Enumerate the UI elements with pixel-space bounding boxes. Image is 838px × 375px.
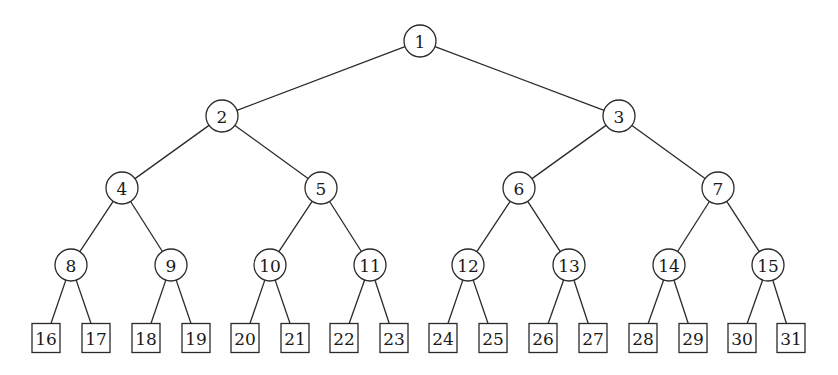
edge-6-13 xyxy=(528,201,561,251)
internal-node-7: 7 xyxy=(702,172,734,204)
node-label: 7 xyxy=(713,179,724,199)
node-label: 28 xyxy=(632,329,654,349)
node-label: 27 xyxy=(582,329,604,349)
node-label: 25 xyxy=(482,329,504,349)
edge-2-4 xyxy=(135,125,209,178)
internal-node-6: 6 xyxy=(503,172,535,204)
leaf-node-27: 27 xyxy=(579,324,607,353)
node-label: 13 xyxy=(558,256,580,276)
internal-node-1: 1 xyxy=(404,25,436,57)
leaf-node-25: 25 xyxy=(479,324,507,353)
edge-12-24 xyxy=(448,280,463,323)
leaf-node-21: 21 xyxy=(281,324,309,353)
node-label: 22 xyxy=(333,329,355,349)
leaf-node-29: 29 xyxy=(679,324,707,353)
node-label: 16 xyxy=(35,329,57,349)
internal-node-9: 9 xyxy=(155,249,187,281)
node-label: 24 xyxy=(432,329,454,349)
edge-4-8 xyxy=(80,201,113,251)
tree-edges xyxy=(51,47,786,324)
leaf-node-16: 16 xyxy=(32,324,60,353)
internal-node-4: 4 xyxy=(106,172,138,204)
node-label: 14 xyxy=(658,256,680,276)
leaf-node-22: 22 xyxy=(330,324,358,353)
edge-13-26 xyxy=(548,280,563,323)
node-label: 5 xyxy=(316,179,327,199)
node-label: 10 xyxy=(259,256,281,276)
edge-11-23 xyxy=(375,280,389,323)
edge-8-16 xyxy=(51,280,66,323)
edge-14-28 xyxy=(648,280,663,323)
leaf-node-17: 17 xyxy=(82,324,110,353)
node-label: 26 xyxy=(532,329,554,349)
node-label: 2 xyxy=(217,107,228,127)
internal-node-14: 14 xyxy=(653,249,685,281)
leaf-node-28: 28 xyxy=(629,324,657,353)
edge-4-9 xyxy=(131,201,163,251)
node-label: 23 xyxy=(383,329,405,349)
leaf-node-26: 26 xyxy=(529,324,557,353)
edge-9-19 xyxy=(176,280,191,323)
node-label: 19 xyxy=(185,329,207,349)
node-label: 20 xyxy=(234,329,256,349)
internal-node-2: 2 xyxy=(206,100,238,132)
tree-nodes: 1234567891011121314151617181920212223242… xyxy=(32,25,805,353)
internal-node-8: 8 xyxy=(55,249,87,281)
node-label: 30 xyxy=(731,329,753,349)
edge-7-14 xyxy=(678,201,710,251)
leaf-node-18: 18 xyxy=(132,324,160,353)
node-label: 12 xyxy=(457,256,479,276)
edge-1-3 xyxy=(435,47,604,111)
node-label: 29 xyxy=(682,329,704,349)
edge-5-10 xyxy=(279,201,312,251)
leaf-node-24: 24 xyxy=(429,324,457,353)
leaf-node-30: 30 xyxy=(728,324,756,353)
edge-3-7 xyxy=(632,125,705,178)
node-label: 31 xyxy=(780,329,802,349)
edge-6-12 xyxy=(477,201,510,251)
node-label: 11 xyxy=(359,256,381,276)
leaf-node-31: 31 xyxy=(777,324,805,353)
node-label: 18 xyxy=(135,329,157,349)
binary-tree-diagram: 1234567891011121314151617181920212223242… xyxy=(0,0,838,375)
internal-node-10: 10 xyxy=(254,249,286,281)
edge-9-18 xyxy=(151,280,166,323)
edge-8-17 xyxy=(76,280,91,323)
edge-11-22 xyxy=(349,280,364,323)
edge-5-11 xyxy=(330,201,362,251)
edge-10-20 xyxy=(250,280,265,323)
internal-node-13: 13 xyxy=(553,249,585,281)
node-label: 1 xyxy=(415,32,426,52)
internal-node-11: 11 xyxy=(354,249,386,281)
edge-10-21 xyxy=(275,280,290,323)
edge-2-5 xyxy=(235,125,308,178)
node-label: 21 xyxy=(284,329,306,349)
internal-node-3: 3 xyxy=(603,100,635,132)
node-label: 3 xyxy=(614,107,625,127)
edge-15-30 xyxy=(747,280,762,323)
leaf-node-23: 23 xyxy=(380,324,408,353)
edge-1-2 xyxy=(237,47,405,111)
internal-node-5: 5 xyxy=(305,172,337,204)
leaf-node-20: 20 xyxy=(231,324,259,353)
edge-7-15 xyxy=(727,201,760,251)
node-label: 17 xyxy=(85,329,107,349)
node-label: 15 xyxy=(757,256,779,276)
edge-15-31 xyxy=(773,280,787,323)
node-label: 8 xyxy=(66,256,77,276)
node-label: 6 xyxy=(514,179,525,199)
leaf-node-19: 19 xyxy=(182,324,210,353)
edge-14-29 xyxy=(674,280,688,323)
node-label: 4 xyxy=(117,179,128,199)
internal-node-15: 15 xyxy=(752,249,784,281)
internal-node-12: 12 xyxy=(452,249,484,281)
node-label: 9 xyxy=(166,256,177,276)
edge-12-25 xyxy=(473,280,488,323)
edge-13-27 xyxy=(574,280,588,323)
edge-3-6 xyxy=(532,125,606,178)
